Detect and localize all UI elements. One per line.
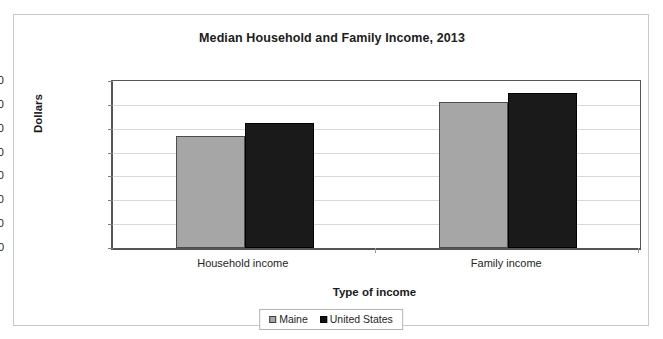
y-tick-mark	[108, 81, 113, 82]
legend-label: Maine	[279, 313, 308, 325]
y-axis-title: Dollars	[32, 94, 44, 133]
legend-label: United States	[330, 313, 393, 325]
bar-maine-household-income[interactable]	[176, 136, 245, 248]
y-tick-mark	[108, 200, 113, 201]
maine-swatch-icon	[269, 316, 276, 323]
chart-title: Median Household and Family Income, 2013	[14, 31, 650, 45]
y-tick-mark	[108, 224, 113, 225]
chart-frame: Median Household and Family Income, 2013…	[13, 14, 649, 326]
x-axis-title: Type of income	[111, 286, 638, 298]
x-axis-category-label: Family income	[375, 257, 639, 269]
y-tick-mark	[108, 176, 113, 177]
y-tick-mark	[108, 105, 113, 106]
legend-item-united-states[interactable]: United States	[320, 313, 393, 325]
legend-item-maine[interactable]: Maine	[269, 313, 308, 325]
y-axis-tick-label: 10,000	[0, 217, 4, 229]
united-states-swatch-icon	[320, 316, 327, 323]
y-tick-mark	[108, 129, 113, 130]
y-axis-tick-label: 30,000	[0, 169, 4, 181]
chart-legend: MaineUnited States	[259, 309, 403, 330]
y-axis-tick-label: 50,000	[0, 122, 4, 134]
y-axis-tick-label: 0	[0, 241, 4, 253]
x-tick-mark	[638, 248, 639, 253]
x-tick-mark	[375, 248, 376, 253]
x-axis-category-label: Household income	[111, 257, 375, 269]
y-axis-tick-label: 60,000	[0, 98, 4, 110]
plot-area: 010,00020,00030,00040,00050,00060,00070,…	[111, 80, 641, 250]
y-axis-tick-label: 20,000	[0, 193, 4, 205]
y-axis-tick-label: 70,000	[0, 74, 4, 86]
bar-united-states-family-income[interactable]	[508, 93, 577, 248]
y-tick-mark	[108, 153, 113, 154]
y-tick-mark	[108, 248, 113, 249]
y-axis-tick-label: 40,000	[0, 146, 4, 158]
bar-maine-family-income[interactable]	[439, 102, 508, 248]
bar-united-states-household-income[interactable]	[245, 123, 314, 248]
